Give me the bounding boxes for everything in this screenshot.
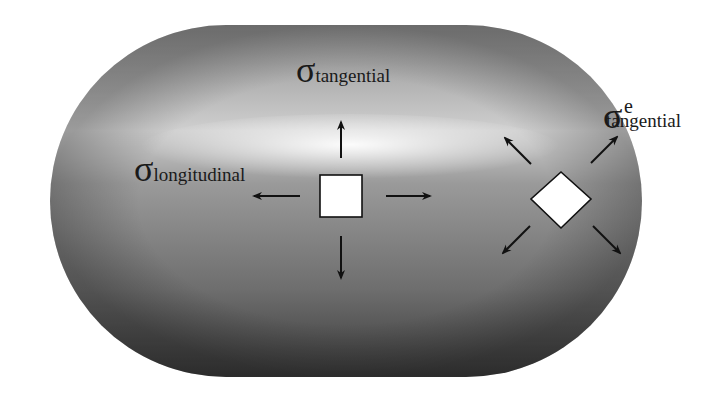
sigma-symbol: σ <box>134 149 153 189</box>
subscript-longitudinal: longitudinal <box>153 164 245 185</box>
subscript-tangential: tangential <box>315 65 390 86</box>
capsule-stress-diagram: σtangential σlongitudinal σ e tangential <box>0 0 712 395</box>
label-tangential: σtangential <box>296 52 390 88</box>
label-longitudinal: σlongitudinal <box>134 151 245 187</box>
sigma-symbol: σ <box>296 50 315 90</box>
cylinder-stress-element <box>320 175 362 217</box>
subscript-end-tangential: tangential <box>606 111 681 130</box>
